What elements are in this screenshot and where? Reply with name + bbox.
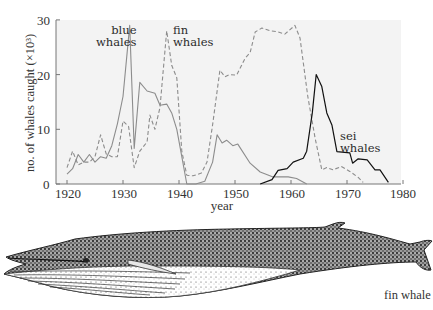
figure: 0 10 20 30 1920 1930 1940 1950 1960 1970… <box>0 0 433 310</box>
y-tick-10: 10 <box>37 122 50 138</box>
fin-whales-label: fin whales <box>173 24 214 48</box>
sei-whales-label: sei whales <box>340 130 381 154</box>
sei-whales-label-line2: whales <box>340 142 381 154</box>
y-tick-30: 30 <box>37 13 50 29</box>
fin-whale-illustration <box>0 200 433 310</box>
fin-whales-label-line2: whales <box>173 36 214 48</box>
y-tick-0: 0 <box>43 177 50 193</box>
line-chart <box>0 0 433 200</box>
y-axis-label: no. of whales caught (×10³) <box>23 34 38 172</box>
blue-whales-label: blue whales <box>96 24 137 48</box>
blue-whales-label-line2: whales <box>96 36 137 48</box>
y-tick-20: 20 <box>37 68 50 84</box>
whale-eye <box>83 258 89 262</box>
illustration-caption: fin whale <box>384 288 431 303</box>
